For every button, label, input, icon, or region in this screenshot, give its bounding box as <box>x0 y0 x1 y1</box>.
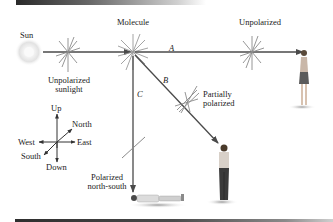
man-observer-icon <box>206 145 238 206</box>
compass-up-label: Up <box>51 104 61 113</box>
unpolarized-burst-a-icon <box>240 36 264 70</box>
polarized-north-south-label: Polarized north-south <box>82 173 132 191</box>
sun-icon <box>15 38 43 66</box>
unpolarized-sunlight-label: Unpolarized sunlight <box>40 76 98 94</box>
unpolarized-label: Unpolarized <box>239 18 281 27</box>
compass-icon <box>39 114 75 162</box>
woman-observer-icon <box>288 50 316 110</box>
path-b-label: B <box>163 76 168 85</box>
path-a-label: A <box>169 44 174 53</box>
compass-south-label: South <box>21 152 41 161</box>
compass-down-label: Down <box>46 163 67 172</box>
molecule-label: Molecule <box>117 18 149 27</box>
path-c-label: C <box>137 90 143 99</box>
compass-east-label: East <box>77 138 92 147</box>
partially-polarized-burst-icon <box>175 86 199 113</box>
unpolarized-burst-icon <box>56 37 80 72</box>
scattering-diagram <box>0 0 333 222</box>
lying-person-icon <box>128 194 188 208</box>
bottom-decorative-bar <box>15 219 333 222</box>
compass-north-label: North <box>72 120 92 129</box>
sun-label: Sun <box>20 31 33 40</box>
partially-polarized-label: Partially polarized <box>203 90 235 108</box>
compass-west-label: West <box>18 138 35 147</box>
